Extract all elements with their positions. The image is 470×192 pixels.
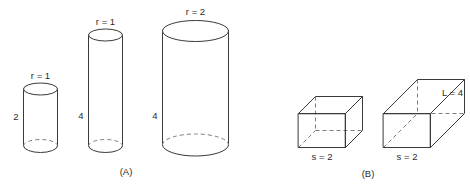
panel-a-cylinders: r = 1 2 r = 1 4 r = 2 4 — [13, 6, 228, 177]
geometry-figure: r = 1 2 r = 1 4 r = 2 4 — [0, 0, 470, 192]
cylinder-small-radius-label: r = 1 — [31, 70, 50, 81]
cylinder-small-height-label: 2 — [13, 111, 18, 122]
box-cube-top-face — [299, 97, 363, 114]
box-long: L = 4 s = 2 — [384, 80, 465, 163]
box-long-side-label: s = 2 — [397, 151, 418, 162]
cylinder-tall-thin-radius-label: r = 1 — [96, 16, 115, 27]
box-long-length-label: L = 4 — [442, 87, 463, 98]
cylinder-small: r = 1 2 — [13, 70, 57, 153]
cylinder-tall-thin-top-ellipse — [89, 29, 123, 41]
cylinder-small-bottom-back-arc — [24, 140, 58, 146]
box-cube-right-face — [346, 97, 363, 148]
box-cube: s = 2 — [299, 97, 363, 163]
cylinder-tall-wide-height-label: 4 — [152, 110, 157, 121]
box-cube-side-label: s = 2 — [312, 151, 333, 162]
figure-container: r = 1 2 r = 1 4 r = 2 4 — [0, 0, 470, 192]
cylinder-tall-thin-bottom-front-arc — [89, 146, 123, 153]
box-cube-hidden-left-depth-edge — [299, 131, 316, 148]
cylinder-tall-thin-height-label: 4 — [78, 110, 83, 121]
cylinder-tall-wide-bottom-back-arc — [163, 134, 229, 145]
cylinder-tall-wide-bottom-front-arc — [163, 145, 229, 156]
caption-panel-b: (B) — [362, 168, 375, 179]
cylinder-tall-wide-top-ellipse — [163, 21, 229, 42]
cylinder-tall-wide: r = 2 4 — [152, 6, 228, 156]
cylinder-tall-wide-radius-label: r = 2 — [186, 6, 205, 17]
box-long-front-face — [384, 114, 431, 148]
box-long-hidden-left-depth-edge — [384, 114, 418, 148]
cylinder-tall-thin-bottom-back-arc — [89, 140, 123, 146]
cylinder-tall-thin: r = 1 4 — [78, 16, 122, 153]
caption-panel-a: (A) — [120, 166, 133, 177]
panel-b-boxes: s = 2 L = 4 s = 2 (B) — [299, 80, 465, 180]
cylinder-small-top-ellipse — [24, 83, 58, 95]
cylinder-small-bottom-front-arc — [24, 146, 58, 153]
